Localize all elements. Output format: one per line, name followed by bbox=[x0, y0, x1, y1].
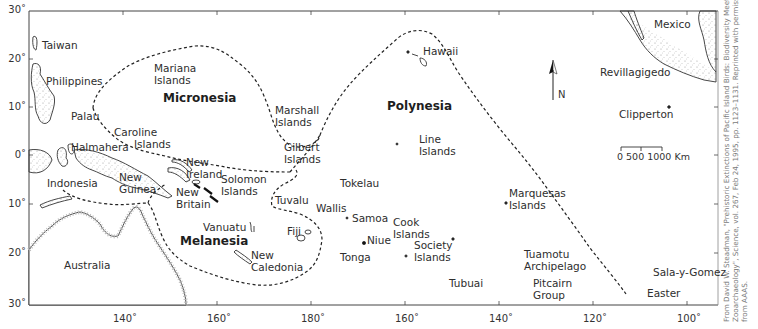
place-label-solomon: Solomon Islands bbox=[221, 173, 267, 197]
lat-label-20n: 20˚ bbox=[2, 53, 26, 64]
lon-label-140e: 140˚ bbox=[113, 313, 137, 324]
lat-label-0: 0˚ bbox=[2, 149, 26, 160]
place-label-indonesia: Indonesia bbox=[47, 177, 98, 189]
place-label-fiji: Fiji bbox=[287, 225, 301, 237]
lat-label-10n: 10˚ bbox=[2, 101, 26, 112]
lon-label-100w: 100˚ bbox=[677, 313, 701, 324]
place-label-pitcairn: Pitcairn Group bbox=[533, 277, 572, 301]
place-label-tuamotu: Tuamotu Archipelago bbox=[524, 248, 586, 272]
lon-label-160e: 160˚ bbox=[207, 313, 231, 324]
lat-label-20s: 20˚ bbox=[2, 247, 26, 258]
taiwan-land bbox=[33, 36, 37, 50]
place-label-new-guinea: New Guinea bbox=[119, 171, 156, 195]
australia-land bbox=[29, 207, 186, 305]
place-label-marquesas: Marquesas Islands bbox=[509, 187, 566, 211]
north-arrow-icon bbox=[549, 60, 557, 100]
place-label-revillagigedo: Revillagigedo bbox=[600, 66, 670, 78]
place-label-niue: Niue bbox=[367, 234, 391, 246]
sulawesi-land bbox=[57, 148, 67, 167]
place-label-tonga: Tonga bbox=[340, 251, 371, 263]
region-label-melanesia: Melanesia bbox=[180, 234, 248, 248]
place-label-clipperton: Clipperton bbox=[619, 108, 673, 120]
place-label-line: Line Islands bbox=[419, 133, 456, 157]
landmasses bbox=[29, 11, 716, 305]
place-label-australia: Australia bbox=[64, 259, 110, 271]
place-label-tubuai: Tubuai bbox=[449, 277, 483, 289]
lon-label-120w: 120˚ bbox=[583, 313, 607, 324]
java-chain bbox=[40, 196, 72, 208]
place-label-caroline: Caroline Islands bbox=[114, 126, 171, 150]
region-label-polynesia: Polynesia bbox=[387, 99, 452, 113]
lon-label-180: 180˚ bbox=[301, 313, 325, 324]
place-label-new-ireland: New Ireland bbox=[186, 156, 222, 180]
place-label-cook: Cook Islands bbox=[393, 216, 430, 240]
place-label-tokelau: Tokelau bbox=[340, 177, 379, 189]
place-label-vanuatu: Vanuatu bbox=[203, 221, 246, 233]
place-label-hawaii: Hawaii bbox=[423, 45, 458, 57]
place-label-sala-y-gomez: Sala-y-Gomez bbox=[653, 266, 726, 278]
place-label-mariana: Mariana Islands bbox=[154, 62, 196, 86]
map-canvas bbox=[0, 0, 758, 329]
place-label-palau: Palau bbox=[71, 110, 99, 122]
lat-label-30s: 30˚ bbox=[2, 298, 26, 309]
lat-label-10s: 10˚ bbox=[2, 198, 26, 209]
vanuatu-land bbox=[250, 222, 254, 232]
region-label-micronesia: Micronesia bbox=[163, 91, 236, 105]
place-label-gilbert: Gilbert Islands bbox=[284, 141, 321, 165]
place-label-society: Society Islands bbox=[414, 239, 453, 263]
lon-label-160w: 160˚ bbox=[395, 313, 419, 324]
scale-bar-label: 0 500 1000 Km bbox=[617, 151, 690, 162]
lon-label-140w: 140˚ bbox=[489, 313, 513, 324]
place-label-new-caledonia: New Caledonia bbox=[251, 249, 303, 273]
borneo-land bbox=[29, 149, 52, 172]
lat-label-30n: 30˚ bbox=[2, 4, 26, 15]
place-label-new-britain: New Britain bbox=[176, 186, 211, 210]
place-label-marshall: Marshall Islands bbox=[275, 104, 319, 128]
north-arrow-label: N bbox=[558, 89, 565, 100]
place-label-philippines: Philippines bbox=[46, 75, 103, 87]
place-label-mexico: Mexico bbox=[654, 18, 691, 30]
philippines-land bbox=[31, 63, 54, 123]
new-caledonia-land bbox=[234, 250, 252, 264]
place-label-easter: Easter bbox=[647, 287, 680, 299]
place-label-tuvalu: Tuvalu bbox=[275, 194, 309, 206]
place-label-samoa: Samoa bbox=[352, 212, 388, 224]
place-label-wallis: Wallis bbox=[316, 202, 346, 214]
place-label-taiwan: Taiwan bbox=[42, 39, 78, 51]
citation-text: From David W. Steadman, "Prehistoric Ext… bbox=[722, 0, 749, 322]
